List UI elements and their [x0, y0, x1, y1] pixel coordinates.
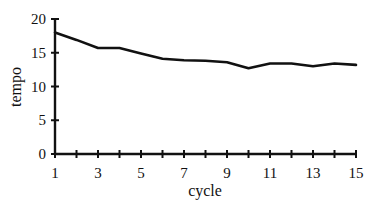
y-tick-label: 0	[39, 146, 47, 162]
x-tick-label: 1	[51, 165, 59, 181]
x-tick-label: 9	[223, 165, 231, 181]
tempo-line	[55, 33, 356, 69]
x-tick-label: 15	[349, 165, 364, 181]
y-axis-title: tempo	[7, 67, 25, 107]
x-tick-label: 3	[94, 165, 102, 181]
x-tick-label: 7	[180, 165, 188, 181]
y-tick-label: 15	[31, 45, 46, 61]
x-tick-label: 5	[137, 165, 145, 181]
x-axis: 13579111315	[51, 150, 363, 181]
line-chart: 05101520 13579111315 tempo cycle	[0, 0, 375, 211]
y-tick-label: 10	[31, 79, 46, 95]
x-tick-label: 11	[263, 165, 277, 181]
x-tick-label: 13	[306, 165, 321, 181]
y-tick-label: 5	[39, 112, 47, 128]
x-axis-title: cycle	[188, 182, 222, 200]
y-tick-label: 20	[31, 11, 46, 27]
